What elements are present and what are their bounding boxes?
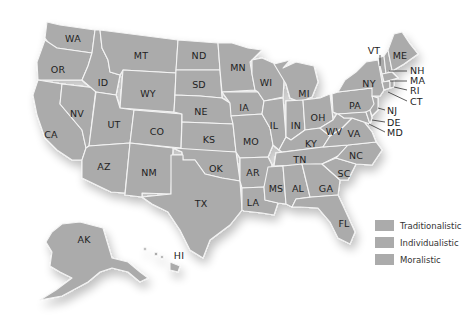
state-label-nv: NV [70,108,84,119]
hi-island [144,248,147,251]
state-label-ky: KY [305,138,317,149]
callout-label-ct: CT [410,96,423,107]
us-map [0,0,472,318]
state-label-co: CO [150,126,165,137]
state-label-ny: NY [362,78,375,89]
state-label-wv: WV [326,126,342,137]
state-label-ks: KS [203,134,216,145]
state-label-mi: MI [298,88,309,99]
contiguous-states [33,22,418,258]
state-label-az: AZ [97,161,110,172]
state-label-fl: FL [338,218,349,229]
state-label-or: OR [51,64,65,75]
legend-swatch [375,254,394,265]
state-label-ut: UT [107,119,120,130]
state-label-id: ID [98,77,109,88]
state-label-in: IN [291,120,301,131]
legend-item-individualistic: Individualistic [375,234,461,251]
state-label-al: AL [292,183,304,194]
state-label-pa: PA [349,100,361,111]
hi-island [154,252,158,256]
state-ak[interactable] [40,222,148,300]
state-label-nc: NC [349,150,363,161]
state-label-me: ME [393,50,408,61]
state-label-ia: IA [239,102,249,113]
state-label-nm: NM [141,167,157,178]
state-label-wa: WA [65,33,81,44]
legend-swatch [375,220,394,231]
state-label-il: IL [270,120,279,131]
state-label-mo: MO [243,136,259,147]
state-label-sd: SD [192,79,206,90]
state-label-sc: SC [337,168,350,179]
state-label-wi: WI [260,77,273,88]
callout-label-nj: NJ [387,105,397,116]
state-label-mn: MN [230,62,246,73]
legend-label: Traditionalistic [400,221,461,231]
state-label-la: LA [247,197,259,208]
state-ct[interactable] [382,81,390,90]
hi-island [160,255,163,258]
us-map-figure: WAORIDMTWYNDSDMNWIMINVCAUTCONEIAILINOHPA… [0,0,472,318]
alaska-hawaii [40,222,180,300]
legend-item-traditionalistic: Traditionalistic [375,217,461,234]
state-label-nd: ND [192,50,207,61]
legend-swatch [375,237,394,248]
state-label-ne: NE [194,106,208,117]
state-label-tx: TX [195,198,208,209]
legend-label: Individualistic [400,238,459,248]
state-label-wy: WY [140,88,156,99]
legend-label: Moralistic [400,255,441,265]
state-label-ga: GA [319,183,333,194]
state-label-oh: OH [310,112,325,123]
callout-label-ri: RI [410,85,420,96]
state-label-hi: HI [174,250,184,261]
callout-label-md: MD [387,127,403,138]
legend: Traditionalistic Individualistic Moralis… [375,217,461,268]
legend-item-moralistic: Moralistic [375,251,461,268]
state-label-ms: MS [269,183,284,194]
state-label-tn: TN [293,154,306,165]
state-label-ca: CA [44,129,58,140]
state-label-ok: OK [209,163,223,174]
state-label-mt: MT [134,50,148,61]
state-label-ar: AR [246,167,260,178]
state-label-ak: AK [77,234,90,245]
callout-label-vt: VT [368,45,381,56]
state-label-va: VA [348,128,361,139]
state-hi[interactable] [170,262,180,272]
